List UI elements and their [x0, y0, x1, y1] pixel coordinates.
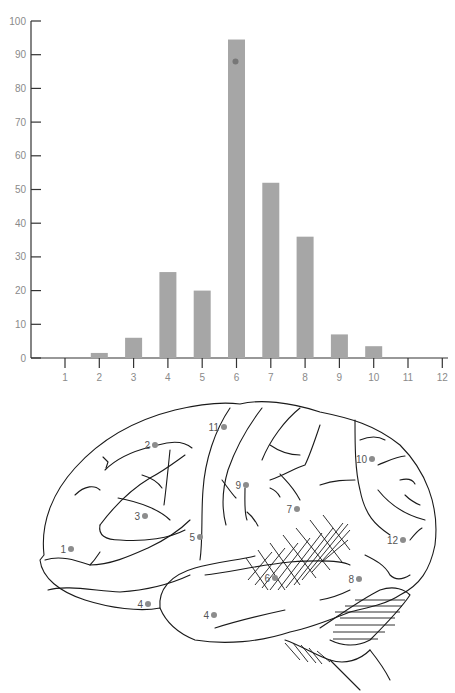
bar-9: [331, 334, 348, 358]
x-tick-label: 3: [131, 372, 137, 383]
x-axis: 123456789101112: [31, 358, 448, 383]
x-tick-label: 9: [337, 372, 343, 383]
site-markers: 1234456789101112: [60, 422, 406, 621]
site-label: 8: [348, 574, 354, 585]
x-tick-label: 6: [234, 372, 240, 383]
y-axis: 0102030405060708090100: [9, 16, 41, 364]
bar-8: [297, 237, 314, 358]
x-tick-label: 2: [97, 372, 103, 383]
y-tick-label: 20: [15, 285, 27, 296]
site-dot: [152, 442, 158, 448]
site-label: 4: [137, 599, 143, 610]
hatched-temporal-region: [246, 515, 350, 590]
site-label: 6: [264, 573, 270, 584]
bar-7: [262, 183, 279, 358]
site-dot: [142, 513, 148, 519]
y-tick-label: 10: [15, 319, 27, 330]
x-tick-label: 11: [403, 372, 414, 383]
x-tick-label: 4: [165, 372, 171, 383]
y-tick-label: 90: [15, 49, 27, 60]
x-tick-label: 1: [62, 372, 68, 383]
y-tick-label: 0: [20, 353, 26, 364]
site-label: 3: [134, 511, 140, 522]
y-tick-label: 40: [15, 218, 27, 229]
y-tick-label: 70: [15, 117, 27, 128]
site-dot: [369, 456, 375, 462]
x-tick-label: 5: [199, 372, 205, 383]
site-label: 4: [203, 610, 209, 621]
data-dot: [233, 58, 239, 64]
x-tick-label: 12: [437, 372, 449, 383]
bar-2: [91, 353, 108, 358]
site-label: 10: [356, 454, 368, 465]
annotations: [233, 58, 239, 64]
bar-4: [159, 272, 176, 358]
site-dot: [221, 424, 227, 430]
bar-5: [194, 291, 211, 358]
site-dot: [400, 537, 406, 543]
x-tick-label: 7: [268, 372, 274, 383]
site-label: 1: [60, 544, 66, 555]
y-tick-label: 100: [9, 16, 26, 27]
site-label: 7: [286, 504, 292, 515]
bars: [91, 40, 382, 358]
site-dot: [211, 612, 217, 618]
y-tick-label: 50: [15, 184, 27, 195]
brain-diagram: 1234456789101112: [0, 385, 455, 693]
site-label: 2: [144, 440, 150, 451]
site-label: 12: [387, 535, 399, 546]
bar-chart: 0102030405060708090100 123456789101112: [0, 0, 455, 385]
site-dot: [243, 482, 249, 488]
site-dot: [68, 546, 74, 552]
site-dot: [272, 575, 278, 581]
hatched-cerebellum: [285, 600, 405, 664]
bar-3: [125, 338, 142, 358]
bar-6: [228, 40, 245, 358]
site-label: 9: [235, 480, 241, 491]
y-tick-label: 60: [15, 150, 27, 161]
bar-10: [365, 346, 382, 358]
site-dot: [145, 601, 151, 607]
site-dot: [294, 506, 300, 512]
x-tick-label: 8: [302, 372, 308, 383]
site-label: 11: [209, 422, 220, 433]
site-label: 5: [189, 532, 195, 543]
x-tick-label: 10: [368, 372, 380, 383]
site-dot: [197, 534, 203, 540]
y-tick-label: 30: [15, 251, 27, 262]
site-dot: [356, 576, 362, 582]
y-tick-label: 80: [15, 83, 27, 94]
